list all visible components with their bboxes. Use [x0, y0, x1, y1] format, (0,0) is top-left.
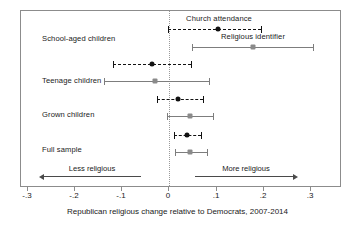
ci-cap-high-full-sample-identifier: [207, 149, 208, 156]
estimate-dot-teenage-identifier: [153, 79, 158, 84]
ci-cap-high-grown-identifier: [213, 113, 214, 120]
ci-bar-school-aged-church: [168, 29, 261, 30]
category-label-school-aged: School-aged children: [42, 34, 115, 43]
x-axis-ticklabel-0: -.3: [22, 191, 31, 200]
category-label-full-sample: Full sample: [42, 145, 82, 154]
ci-cap-high-teenage-identifier: [209, 78, 210, 85]
annotation-line-more-religious: [195, 176, 293, 177]
estimate-dot-grown-identifier: [188, 114, 193, 119]
category-label-grown: Grown children: [42, 110, 94, 119]
x-axis-ticklabel-6: .3: [307, 191, 314, 200]
ci-cap-high-grown-church: [203, 96, 204, 103]
ci-cap-high-teenage-church: [191, 61, 192, 68]
series-label-religious-identifier-row1: Religious identifier: [221, 32, 285, 41]
ci-cap-low-grown-church: [157, 96, 158, 103]
estimate-dot-school-aged-church: [216, 27, 221, 32]
ci-cap-low-school-aged-church: [168, 26, 169, 33]
estimate-dot-teenage-church: [150, 62, 155, 67]
figure-container: School-aged children Church attendance R…: [0, 0, 355, 229]
ci-cap-low-school-aged-identifier: [192, 44, 193, 51]
ci-cap-low-full-sample-identifier: [175, 149, 176, 156]
estimate-dot-grown-church: [176, 97, 181, 102]
ci-cap-low-full-sample-church: [174, 132, 175, 139]
ci-cap-low-teenage-church: [113, 61, 114, 68]
estimate-dot-school-aged-identifier: [251, 45, 256, 50]
x-axis-ticklabel-2: -.1: [116, 191, 125, 200]
x-axis-ticklabel-5: .2: [260, 191, 267, 200]
annotation-arrow-less-religious: [39, 174, 44, 180]
x-axis-ticklabel-1: -.2: [69, 191, 78, 200]
annotation-arrow-more-religious: [293, 174, 298, 180]
estimate-dot-full-sample-church: [185, 133, 190, 138]
ci-cap-low-teenage-identifier: [104, 78, 105, 85]
x-axis-title: Republican religious change relative to …: [0, 207, 355, 216]
ci-cap-low-grown-identifier: [167, 113, 168, 120]
annotation-label-more-religious: More religious: [222, 164, 270, 173]
x-axis-ticklabel-4: .1: [213, 191, 220, 200]
annotation-label-less-religious: Less religious: [69, 164, 115, 173]
annotation-line-less-religious: [44, 176, 141, 177]
x-axis-ticklabel-3: 0: [166, 191, 170, 200]
series-label-church-attendance-row1: Church attendance: [186, 14, 252, 23]
estimate-dot-full-sample-identifier: [188, 150, 193, 155]
ci-cap-high-school-aged-identifier: [313, 44, 314, 51]
ci-cap-high-full-sample-church: [201, 132, 202, 139]
category-label-teenage: Teenage children: [42, 76, 101, 85]
